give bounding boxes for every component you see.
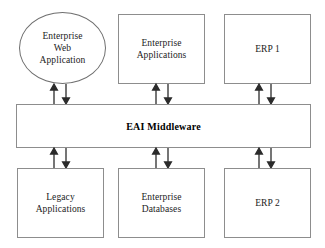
connector-erp-2 (253, 148, 277, 168)
node-enterprise-databases: Enterprise Databases (118, 168, 205, 238)
arrow-up-head (51, 148, 58, 154)
node-legacy-applications: Legacy Applications (17, 168, 104, 238)
node-erp-1: ERP 1 (224, 14, 311, 84)
arrow-up-head (153, 84, 160, 90)
node-enterprise-web-application: Enterprise Web Application (19, 12, 106, 84)
arrow-up-head (256, 84, 263, 90)
arrow-up-head (256, 148, 263, 154)
node-label: Enterprise Web Application (37, 30, 89, 66)
arrow-up-head (51, 84, 58, 90)
node-label: Enterprise Databases (138, 191, 184, 215)
node-label: Legacy Applications (33, 191, 89, 215)
node-label: EAI Middleware (126, 121, 201, 132)
node-eai-middleware: EAI Middleware (16, 104, 311, 148)
connector-web-application (48, 84, 72, 104)
diagram-canvas: Enterprise Web Application Enterprise Ap… (0, 0, 325, 248)
node-label: ERP 1 (252, 43, 283, 55)
connector-enterprise-applications (150, 84, 174, 104)
node-erp-2: ERP 2 (224, 168, 311, 238)
connector-enterprise-databases (150, 148, 174, 168)
node-label: Enterprise Applications (134, 37, 190, 61)
connector-legacy-applications (48, 148, 72, 168)
node-label: ERP 2 (252, 197, 283, 209)
connector-erp-1 (253, 84, 277, 104)
arrow-up-head (153, 148, 160, 154)
node-enterprise-applications: Enterprise Applications (118, 14, 205, 84)
